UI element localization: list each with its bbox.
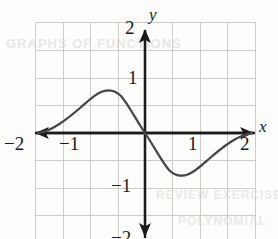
x-tick-label-minus-1: −1 xyxy=(59,134,79,153)
x-axis-label: x xyxy=(259,118,267,135)
x-tick-label-2: 2 xyxy=(240,134,250,153)
y-tick-label-2: 2 xyxy=(125,18,135,37)
y-tick-label-1: 1 xyxy=(128,68,138,87)
y-axis-label: y xyxy=(149,6,157,23)
x-tick-label-1: 1 xyxy=(188,134,198,153)
x-tick-label-minus-2: −2 xyxy=(4,134,24,153)
coordinate-plane xyxy=(0,0,278,239)
y-tick-label-minus-2: −2 xyxy=(111,228,131,239)
graph-figure: GRAPHS OF FUNCTIONS REVIEW EXERCISES POL… xyxy=(0,0,278,239)
y-tick-label-minus-1: −1 xyxy=(111,176,131,195)
